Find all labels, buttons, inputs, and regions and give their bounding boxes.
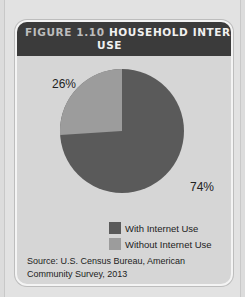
legend-item-with: With Internet Use (109, 220, 212, 236)
swatch-without-internet (109, 238, 121, 250)
swatch-with-internet (109, 222, 121, 234)
legend: With Internet Use Without Internet Use (109, 220, 212, 252)
figure-title-line2: USE (17, 39, 231, 52)
source-note: Source: U.S. Census Bureau, American Com… (27, 255, 227, 281)
page-edge-left (0, 0, 5, 297)
figure-header: FIGURE 1.10 HOUSEHOLD INTERNET USE (17, 22, 231, 56)
legend-item-without: Without Internet Use (109, 236, 212, 252)
legend-label: With Internet Use (125, 223, 198, 234)
figure-card: FIGURE 1.10 HOUSEHOLD INTERNET USE 26% 7… (15, 20, 233, 286)
figure-number: FIGURE 1.10 (25, 26, 105, 38)
pie-svg (57, 66, 187, 196)
label-without-pct: 26% (52, 77, 76, 91)
legend-label: Without Internet Use (125, 239, 212, 250)
pie-chart (57, 66, 187, 196)
figure-title: HOUSEHOLD INTERNET (109, 26, 233, 38)
label-with-pct: 74% (190, 180, 214, 194)
page-edge-right (240, 0, 245, 297)
